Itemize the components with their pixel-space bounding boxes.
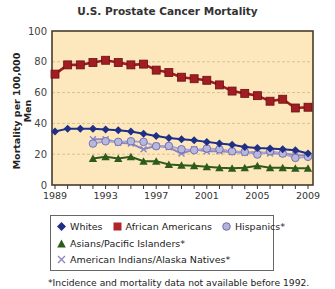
data-point-circle [292,154,300,162]
data-point-circle [165,142,173,150]
legend-row-2: Asians/Pacific Islanders* [57,238,195,249]
legend-item-whites: Whites [57,221,103,232]
data-point-square [127,61,135,69]
data-point-square [266,97,274,105]
legend-item-american-indians: American Indians/Alaska Natives* [57,254,230,265]
data-point-square [291,104,299,112]
data-point-square [190,75,198,83]
data-point-square [178,73,186,81]
data-point-square [89,59,97,67]
data-point-square [215,81,223,89]
data-point-circle [190,146,198,154]
data-point-square [102,56,110,64]
x-tick-label: 2009 [296,190,320,201]
data-point-square [253,92,261,100]
diamond-icon [57,222,66,231]
x-tick-label: 2005 [245,190,269,201]
legend-label-american-indians: American Indians/Alaska Natives* [70,254,230,265]
legend-item-asians: Asians/Pacific Islanders* [57,238,185,249]
y-tick-label: 20 [34,149,47,160]
data-point-square [241,89,249,97]
x-tick-label: 1997 [144,190,168,201]
legend-item-hispanics: Hispanics* [222,221,285,232]
legend-row-3: American Indians/Alaska Natives* [57,254,240,265]
data-point-square [279,95,287,103]
footnote: *Incidence and mortality data not availa… [48,277,309,288]
circle-icon [222,222,231,231]
y-tick-label: 80 [34,56,47,67]
data-point-square [51,70,59,78]
legend-row-1: Whites African Americans Hispanics* [57,221,295,232]
y-tick-label: 60 [34,87,47,98]
legend-item-african-americans: African Americans [113,221,212,232]
x-tick-label: 2001 [195,190,219,201]
legend: Whites African Americans Hispanics* Asia… [50,215,274,271]
square-icon [113,222,122,231]
x-tick-label: 1989 [43,190,67,201]
data-point-circle [102,137,110,145]
data-point-square [152,66,160,74]
data-point-square [203,76,211,84]
data-point-circle [127,137,135,145]
data-point-circle [114,138,122,146]
data-point-square [165,69,173,77]
x-mark-icon [57,255,66,264]
data-point-circle [140,138,148,146]
y-tick-label: 40 [34,118,47,129]
data-point-square [304,103,312,111]
y-tick-label: 100 [28,26,47,37]
data-point-square [114,59,122,67]
data-point-circle [152,142,160,150]
legend-label-whites: Whites [70,221,103,232]
legend-label-asians: Asians/Pacific Islanders* [70,238,185,249]
x-tick-label: 1993 [94,190,118,201]
triangle-icon [57,239,66,248]
legend-label-african-americans: African Americans [126,221,212,232]
data-point-square [64,61,72,69]
data-point-square [228,87,236,95]
data-point-square [76,61,84,69]
data-point-circle [89,140,97,148]
y-tick-label: 0 [41,180,47,191]
legend-label-hispanics: Hispanics* [235,221,285,232]
data-point-circle [178,145,186,153]
data-point-square [140,60,148,68]
